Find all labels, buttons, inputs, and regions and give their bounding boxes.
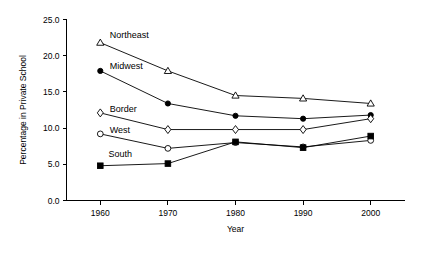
marker-open-circle (165, 145, 171, 151)
marker-open-circle (97, 131, 103, 137)
marker-open-diamond (300, 126, 306, 134)
y-tick-label: 15.0 (43, 87, 60, 97)
y-tick-label: 0.0 (48, 196, 60, 206)
marker-open-diamond (97, 109, 103, 117)
marker-open-diamond (165, 126, 171, 134)
x-tick-label: 2000 (361, 208, 380, 218)
series-label-border: Border (110, 104, 137, 114)
y-tick-label: 5.0 (48, 159, 60, 169)
x-tick-label: 1970 (158, 208, 177, 218)
marker-filled-circle (165, 101, 170, 106)
x-axis-ticks: 19601970198019902000 (91, 201, 381, 218)
marker-filled-square (98, 163, 104, 169)
y-axis-title: Percentage in Private School (18, 55, 28, 165)
chart-container: 0.05.010.015.020.025.0 19601970198019902… (0, 0, 422, 255)
x-tick-label: 1980 (226, 208, 245, 218)
y-axis-ticks: 0.05.010.015.020.025.0 (43, 15, 67, 206)
series-label-midwest: Midwest (110, 61, 144, 71)
y-tick-label: 10.0 (43, 123, 60, 133)
marker-filled-square (165, 161, 171, 167)
y-tick-label: 25.0 (43, 15, 60, 25)
marker-filled-circle (301, 116, 306, 121)
line-chart: 0.05.010.015.020.025.0 19601970198019902… (0, 0, 422, 255)
marker-open-triangle (97, 39, 104, 45)
marker-filled-square (300, 145, 306, 151)
marker-filled-square (368, 133, 374, 139)
y-tick-label: 20.0 (43, 51, 60, 61)
x-tick-label: 1990 (294, 208, 313, 218)
series-label-west: West (110, 125, 131, 135)
series-label-south: South (108, 149, 132, 159)
marker-open-triangle (164, 67, 171, 73)
series-label-northeast: Northeast (110, 30, 150, 40)
marker-open-diamond (233, 126, 239, 134)
marker-filled-circle (233, 113, 238, 118)
x-tick-label: 1960 (91, 208, 110, 218)
marker-filled-square (233, 139, 239, 145)
marker-filled-circle (98, 68, 103, 73)
x-axis-title: Year (227, 224, 244, 234)
